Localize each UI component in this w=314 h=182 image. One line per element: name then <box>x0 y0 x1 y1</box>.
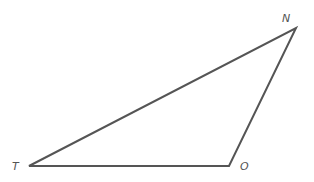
triangle-diagram: T O N <box>0 0 314 182</box>
vertex-label-O: O <box>240 160 249 173</box>
triangle-TON <box>29 28 296 166</box>
vertex-label-N: N <box>282 12 290 25</box>
vertex-label-T: T <box>12 160 20 173</box>
